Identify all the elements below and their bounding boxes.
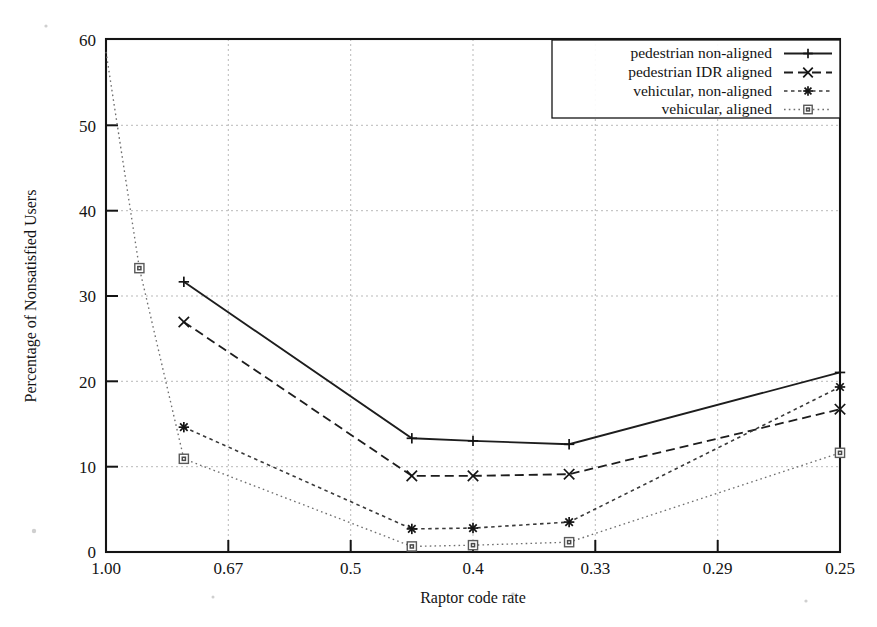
- data-point-marker-cross: [179, 317, 189, 327]
- x-tick-label: 0.25: [825, 559, 855, 578]
- x-tick-label: 0.4: [462, 559, 484, 578]
- x-tick-label: 0.67: [213, 559, 243, 578]
- y-tick-label: 30: [79, 287, 96, 306]
- legend-label-1: pedestrian IDR aligned: [628, 63, 772, 80]
- data-point-marker-open-square: [407, 542, 416, 551]
- chart-figure: 0 10 20 30 40 50 60 1.00 0.67 0.5 0.4 0.…: [0, 0, 877, 627]
- y-tick-label: 40: [79, 202, 96, 221]
- data-point-marker-star: [407, 524, 417, 534]
- series-2: [179, 382, 846, 534]
- data-point-marker-cross: [407, 471, 417, 481]
- data-point-marker-star: [564, 517, 574, 527]
- data-point-marker-open-square: [804, 105, 812, 113]
- y-axis-title: Percentage of Nonsatisfied Users: [22, 190, 40, 403]
- y-tick-label: 50: [79, 117, 96, 136]
- series-0: [179, 277, 846, 450]
- data-point-marker-plus: [468, 436, 478, 446]
- legend-label-0: pedestrian non-aligned: [630, 44, 772, 61]
- y-tickmarks: [106, 39, 118, 552]
- line-chart-canvas: 0 10 20 30 40 50 60 1.00 0.67 0.5 0.4 0.…: [0, 0, 877, 627]
- y-tick-label: 60: [79, 31, 96, 50]
- legend-label-2: vehicular, non-aligned: [633, 82, 772, 99]
- x-tick-label: 0.29: [703, 559, 733, 578]
- series-layer: [106, 52, 845, 551]
- x-tick-label: 1.00: [91, 559, 121, 578]
- data-point-marker-open-square: [179, 454, 188, 463]
- data-point-marker-open-square: [468, 541, 477, 550]
- data-point-marker-star: [468, 523, 478, 533]
- data-point-marker-open-square: [135, 264, 144, 273]
- data-point-marker-open-square: [835, 448, 844, 457]
- x-tick-label: 0.5: [340, 559, 361, 578]
- data-point-marker-star: [835, 382, 845, 392]
- y-tick-label: 10: [79, 458, 96, 477]
- data-point-marker-star: [803, 86, 813, 96]
- series-1: [179, 317, 846, 481]
- data-point-marker-plus: [564, 439, 574, 449]
- x-tick-labels: 1.00 0.67 0.5 0.4 0.33 0.29 0.25: [91, 559, 855, 578]
- series-line-0: [184, 282, 840, 444]
- data-point-marker-star: [179, 422, 189, 432]
- x-tick-label: 0.33: [580, 559, 610, 578]
- y-tick-label: 20: [79, 373, 96, 392]
- legend-label-3: vehicular, aligned: [662, 100, 773, 117]
- y-tick-labels: 0 10 20 30 40 50 60: [79, 31, 96, 562]
- data-point-marker-plus: [835, 367, 845, 377]
- chart-legend: pedestrian non-aligned pedestrian IDR al…: [552, 40, 840, 118]
- series-line-2: [184, 387, 840, 529]
- x-axis-title: Raptor code rate: [420, 589, 526, 607]
- data-point-marker-open-square: [565, 538, 574, 547]
